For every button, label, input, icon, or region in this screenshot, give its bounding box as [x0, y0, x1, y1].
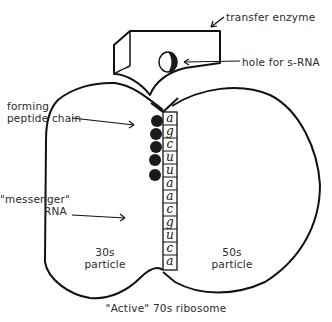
label-forming: forming: [7, 100, 49, 112]
peptide-chain: [149, 115, 163, 181]
mrna-base: u: [163, 229, 177, 241]
mrna-base: c: [163, 242, 177, 254]
mrna-base: a: [163, 112, 177, 124]
label-30s: 30s: [75, 246, 135, 258]
transfer-enzyme-block: [114, 31, 220, 95]
label-30s-particle: particle: [75, 258, 135, 270]
mrna-base: u: [163, 164, 177, 176]
mrna-base: c: [163, 203, 177, 215]
mrna-base: a: [163, 177, 177, 189]
label-transfer-enzyme: transfer enzyme: [226, 11, 315, 23]
mrna-base: u: [163, 151, 177, 163]
mrna-base: a: [163, 190, 177, 202]
label-50s-particle: particle: [202, 258, 262, 270]
diagram-caption: "Active" 70s ribosome: [96, 302, 236, 314]
mrna-base: g: [163, 216, 177, 228]
label-messenger: "messenger": [0, 193, 67, 205]
mrna-base: a: [163, 255, 177, 267]
label-peptide-chain: peptide chain: [7, 112, 81, 124]
label-50s: 50s: [202, 246, 262, 258]
mrna-base: g: [163, 125, 177, 137]
label-rna: RNA: [0, 205, 67, 217]
label-hole-for-s-rna: hole for s-RNA: [242, 56, 320, 68]
mrna-base: c: [163, 138, 177, 150]
arrow-mrna: [72, 215, 125, 218]
